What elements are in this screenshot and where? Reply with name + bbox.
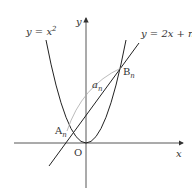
- arc-label: an: [92, 79, 103, 93]
- x-axis-label: x: [176, 148, 182, 159]
- arc-a-n: [67, 68, 121, 131]
- point-a-label: An: [54, 125, 67, 139]
- point-b-label: Bn: [123, 66, 135, 80]
- origin-label: O: [74, 147, 82, 158]
- parabola-label: y = x2: [25, 25, 57, 37]
- y-axis-label: y: [75, 16, 82, 27]
- line-curve: [49, 43, 139, 166]
- diagram-canvas: y x O y = x2 y = 2x + n An Bn an: [0, 0, 192, 196]
- line-label: y = 2x + n: [140, 28, 192, 39]
